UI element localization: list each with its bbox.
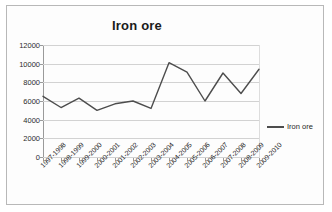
y-axis-tick-label: 4000	[6, 115, 40, 124]
y-axis-tick-mark	[40, 101, 43, 102]
y-axis-tick-label: 6000	[6, 97, 40, 106]
y-axis-tick-mark	[40, 64, 43, 65]
y-axis-tick-mark	[40, 120, 43, 121]
y-axis-tick-mark	[40, 138, 43, 139]
y-axis-tick-label: 10000	[6, 59, 40, 68]
y-axis-tick-label: 8000	[6, 78, 40, 87]
chart-legend: Iron ore	[267, 122, 313, 131]
chart-title: Iron ore	[7, 18, 267, 33]
y-axis-labels: 120001000080006000400020000	[7, 45, 40, 157]
y-axis-tick-label: 2000	[6, 134, 40, 143]
legend-label-iron-ore: Iron ore	[287, 122, 313, 131]
legend-color-swatch	[267, 126, 284, 128]
y-axis-tick-label: 0	[6, 153, 40, 162]
y-axis-tick-mark	[40, 82, 43, 83]
y-axis-tick-label: 12000	[6, 41, 40, 50]
y-axis-tick-mark	[40, 45, 43, 46]
chart-container: Iron ore 120001000080006000400020000 Iro…	[6, 5, 324, 205]
